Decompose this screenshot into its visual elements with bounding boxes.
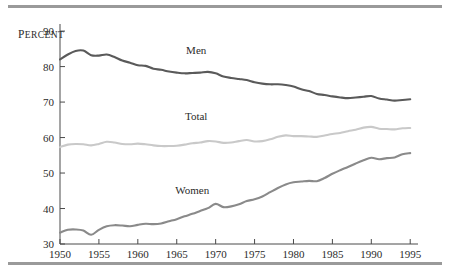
x-axis-tick-label: 1980 — [282, 248, 305, 260]
series-label-men: Men — [186, 44, 207, 56]
y-axis-tick-label: 80 — [43, 61, 55, 73]
y-axis-title: PERCENT — [18, 28, 64, 40]
series-line-men — [60, 50, 410, 100]
x-axis-tick-label: 1970 — [205, 248, 228, 260]
series-label-women: Women — [175, 184, 209, 196]
y-axis-tick-label: 70 — [43, 96, 55, 108]
figure-container: 30405060708090 1950195519601965197019751… — [0, 0, 450, 277]
y-axis-tick-label: 50 — [43, 167, 55, 179]
x-axis-tick-label: 1950 — [49, 248, 72, 260]
series-line-total — [60, 127, 410, 147]
series-labels: MenTotalWomen — [175, 44, 209, 196]
chart-svg: 30405060708090 1950195519601965197019751… — [0, 0, 450, 277]
x-axis-tick-label: 1965 — [166, 248, 189, 260]
x-axis-tick-label: 1985 — [321, 248, 344, 260]
x-axis-tick-label: 1990 — [360, 248, 383, 260]
x-axis-tick-label: 1995 — [399, 248, 422, 260]
x-axis-tick-label: 1955 — [88, 248, 111, 260]
series-lines — [60, 50, 410, 235]
x-axis-tick-label: 1975 — [244, 248, 267, 260]
series-line-women — [60, 153, 410, 235]
series-label-total: Total — [185, 110, 207, 122]
x-axis-tick-label: 1960 — [127, 248, 150, 260]
y-axis-tick-label: 40 — [43, 203, 55, 215]
y-axis-tick-label: 60 — [43, 132, 55, 144]
x-axis: 1950195519601965197019751980198519901995 — [49, 239, 422, 260]
line-chart: 30405060708090 1950195519601965197019751… — [0, 0, 450, 277]
